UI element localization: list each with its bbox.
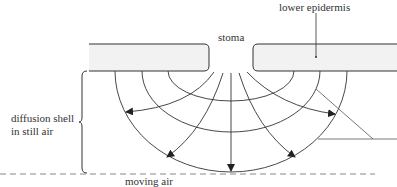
diffusion-shell-label-2: in still air: [11, 125, 53, 137]
stoma-label: stoma: [218, 31, 244, 43]
diffusion-shell-label-1: diffusion shell: [11, 112, 74, 124]
brace-icon: [79, 71, 87, 173]
shell-pointer-lines: [316, 89, 397, 139]
arrow-right-far: [247, 72, 335, 114]
epidermis-left: [89, 44, 209, 71]
epidermis-right: [253, 44, 397, 71]
epidermis-pointer-dot: [315, 56, 317, 58]
moving-air-label: moving air: [125, 175, 173, 187]
stoma-diffusion-diagram: [0, 0, 397, 187]
lower-epidermis-label: lower epidermis: [279, 1, 350, 13]
